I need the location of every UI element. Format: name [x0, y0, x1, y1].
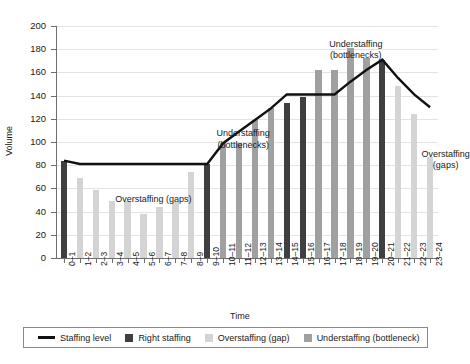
legend-label: Right staffing [138, 333, 190, 343]
x-axis-tick-label: 12–13 [258, 242, 268, 266]
annotation: Overstaffing(gaps) [421, 149, 469, 172]
x-axis-tick-label: 14–15 [290, 242, 300, 266]
x-axis-tick-mark [430, 259, 431, 263]
legend-line-swatch [38, 336, 55, 339]
x-axis-tick-mark [112, 259, 113, 263]
x-axis-tick-label: 2–3 [99, 252, 109, 266]
legend-square-swatch [205, 334, 213, 342]
x-axis-tick-mark [335, 259, 336, 263]
annotation-line: Overstaffing [421, 149, 469, 161]
x-axis-tick-label: 18–19 [354, 242, 364, 266]
x-axis-tick-label: 21–22 [402, 242, 412, 266]
x-axis-tick-mark [271, 259, 272, 263]
x-axis-tick-label: 7–8 [179, 252, 189, 266]
x-axis-tick-mark [350, 259, 351, 263]
annotation-line: (gaps) [421, 160, 469, 172]
y-axis-tick-label: 0 [12, 252, 46, 263]
x-axis-tick-label: 0–1 [67, 252, 77, 266]
legend-square-swatch [125, 334, 133, 342]
legend-label: Understaffing (bottleneck) [317, 333, 420, 343]
annotation: Understaffing(bottlenecks) [329, 39, 382, 62]
x-axis-tick-label: 13–14 [274, 242, 284, 266]
annotation-line: (bottlenecks) [329, 50, 382, 62]
y-axis-tick-label: 180 [12, 43, 46, 54]
x-axis-tick-mark [96, 259, 97, 263]
legend-item[interactable]: Overstaffing (gap) [205, 333, 290, 343]
x-axis-tick-mark [366, 259, 367, 263]
x-axis-tick-mark [80, 259, 81, 263]
x-axis-tick-mark [64, 259, 65, 263]
legend-item[interactable]: Staffing level [38, 333, 111, 343]
x-axis-tick-label: 8–9 [195, 252, 205, 266]
x-axis-tick-label: 19–20 [370, 242, 380, 266]
x-axis-tick-mark [398, 259, 399, 263]
legend-label: Staffing level [60, 333, 111, 343]
legend-label: Overstaffing (gap) [218, 333, 290, 343]
x-axis-tick-mark [159, 259, 160, 263]
y-axis-tick-label: 120 [12, 113, 46, 124]
x-axis-tick-label: 1–2 [83, 252, 93, 266]
x-axis-tick-label: 9–10 [211, 247, 221, 266]
x-axis-tick-label: 11–12 [243, 243, 253, 266]
chart-legend: Staffing levelRight staffingOverstaffing… [23, 327, 428, 348]
x-axis-tick-label: 22–23 [418, 242, 428, 266]
x-axis-tick-mark [175, 259, 176, 263]
x-axis-tick-mark [191, 259, 192, 263]
x-axis-tick-label: 15–16 [306, 242, 316, 266]
annotation: Understaffing(bottlenecks) [216, 128, 269, 151]
annotation-line: (bottlenecks) [216, 140, 269, 152]
x-axis-tick-label: 3–4 [115, 252, 125, 266]
x-axis-tick-mark [414, 259, 415, 263]
y-axis-tick-label: 80 [12, 159, 46, 170]
x-axis-tick-label: 6–7 [163, 252, 173, 266]
x-axis-tick-label: 20–21 [386, 242, 396, 266]
x-axis-tick-mark [223, 259, 224, 263]
x-axis-tick-mark [287, 259, 288, 263]
x-axis-tick-mark [382, 259, 383, 263]
y-axis-tick-label: 60 [12, 182, 46, 193]
legend-item[interactable]: Understaffing (bottleneck) [304, 333, 420, 343]
x-axis-title: Time [230, 311, 250, 321]
y-axis-tick-label: 20 [12, 229, 46, 240]
annotation-line: Overstaffing (gaps) [115, 194, 191, 206]
x-axis-tick-mark [319, 259, 320, 263]
y-axis-tick-label: 200 [12, 20, 46, 31]
y-axis-tick-label: 160 [12, 66, 46, 77]
x-axis-tick-label: 23–24 [434, 242, 444, 266]
legend-square-swatch [304, 334, 312, 342]
y-axis-tick-label: 140 [12, 90, 46, 101]
y-axis-tick-label: 40 [12, 206, 46, 217]
x-axis-tick-mark [239, 259, 240, 263]
x-axis-tick-label: 4–5 [131, 252, 141, 266]
x-axis-tick-mark [303, 259, 304, 263]
x-axis-tick-label: 16–17 [322, 242, 332, 266]
x-axis-tick-label: 10–11 [227, 243, 237, 266]
y-axis-tick-label: 100 [12, 136, 46, 147]
legend-item[interactable]: Right staffing [125, 333, 190, 343]
annotation: Overstaffing (gaps) [115, 194, 191, 206]
annotation-line: Understaffing [329, 39, 382, 51]
x-axis-tick-mark [144, 259, 145, 263]
x-axis-tick-label: 5–6 [147, 252, 157, 266]
annotation-line: Understaffing [216, 128, 269, 140]
x-axis-tick-mark [128, 259, 129, 263]
x-axis-tick-label: 17–18 [338, 242, 348, 266]
x-axis-tick-mark [255, 259, 256, 263]
x-axis-tick-mark [207, 259, 208, 263]
